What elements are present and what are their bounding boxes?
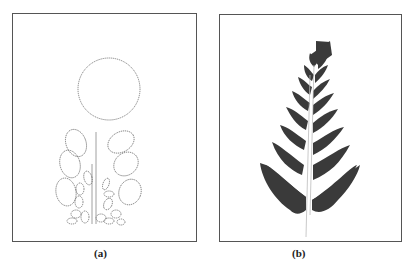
fern-fractal-drawing — [220, 15, 403, 243]
panel-a-frame — [12, 13, 197, 242]
top-circle — [78, 58, 140, 120]
panel-b-label: (b) — [292, 247, 305, 259]
fern-construction-drawing — [13, 14, 198, 243]
panel-a-label: (a) — [94, 247, 107, 259]
panel-b-frame — [219, 14, 402, 242]
